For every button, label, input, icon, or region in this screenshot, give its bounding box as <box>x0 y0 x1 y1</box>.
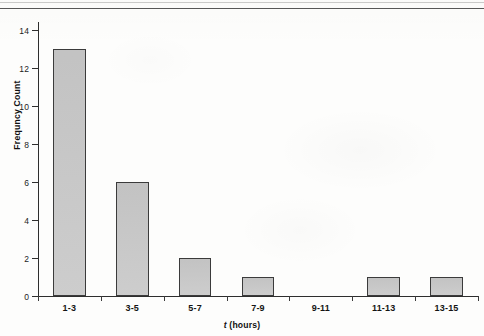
bar-1-3 <box>53 49 86 296</box>
bar-3-5 <box>116 182 149 296</box>
x-axis-line <box>38 296 478 297</box>
x-category-label-7-9: 7-9 <box>227 303 290 313</box>
bar-11-13 <box>367 277 400 296</box>
y-tick-label-10: 10 <box>19 102 29 112</box>
x-tick-end <box>478 296 479 301</box>
y-tick-label-0: 0 <box>24 292 29 302</box>
bar-7-9 <box>242 277 275 296</box>
y-tick-4: 4 <box>32 220 38 221</box>
x-category-label-3-5: 3-5 <box>101 303 164 313</box>
y-tick-6: 6 <box>32 182 38 183</box>
x-category-label-1-3: 1-3 <box>38 303 101 313</box>
x-category-label-11-13: 11-13 <box>352 303 415 313</box>
x-category-label-13-15: 13-15 <box>415 303 478 313</box>
x-axis-title: t (hours) <box>0 320 484 330</box>
y-tick-label-6: 6 <box>24 178 29 188</box>
scan-edge-line-upper <box>0 2 484 3</box>
histogram-screenshot: Frequncy Count t (hours) 02468101214 1-3… <box>0 0 484 336</box>
y-tick-10: 10 <box>32 106 38 107</box>
x-axis-title-units: (hours) <box>227 320 261 330</box>
x-category-label-5-7: 5-7 <box>164 303 227 313</box>
x-tick-4 <box>289 296 290 301</box>
y-tick-8: 8 <box>32 144 38 145</box>
y-tick-label-4: 4 <box>24 216 29 226</box>
x-tick-6 <box>415 296 416 301</box>
y-tick-2: 2 <box>32 258 38 259</box>
x-tick-0 <box>38 296 39 301</box>
y-tick-label-8: 8 <box>24 140 29 150</box>
y-tick-label-14: 14 <box>19 26 29 36</box>
x-category-label-9-11: 9-11 <box>289 303 352 313</box>
x-tick-5 <box>352 296 353 301</box>
y-tick-14: 14 <box>32 30 38 31</box>
bar-13-15 <box>430 277 463 296</box>
x-tick-3 <box>227 296 228 301</box>
y-tick-12: 12 <box>32 68 38 69</box>
y-tick-label-2: 2 <box>24 254 29 264</box>
x-tick-1 <box>101 296 102 301</box>
x-tick-2 <box>164 296 165 301</box>
figure-top-border <box>0 8 484 9</box>
bar-5-7 <box>179 258 212 296</box>
y-tick-label-12: 12 <box>19 64 29 74</box>
y-axis-line <box>38 22 39 297</box>
